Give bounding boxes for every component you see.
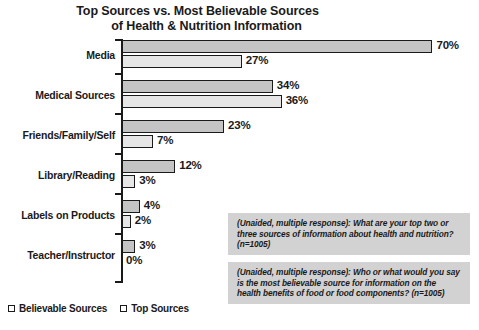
chart-title-line-2: of Health & Nutrition Information	[0, 19, 395, 34]
bar-value-label: 4%	[144, 199, 160, 211]
category-label: Friends/Family/Self	[0, 129, 115, 141]
bar	[122, 175, 135, 188]
bar-value-label: 0%	[126, 254, 142, 266]
annotation-believable-sources: (Unaided, multiple response): Who or wha…	[228, 262, 470, 304]
bar	[122, 215, 131, 228]
bar-row: 12%	[122, 160, 462, 173]
bar-value-label: 27%	[246, 54, 268, 66]
bar-row: 23%	[122, 120, 462, 133]
chart-container: Top Sources vs. Most Believable Sources …	[0, 0, 479, 330]
bar	[122, 240, 135, 253]
bar-value-label: 36%	[286, 94, 308, 106]
bar-group: Library/Reading12%3%	[0, 160, 479, 200]
bar	[122, 95, 282, 108]
bar	[122, 135, 153, 148]
chart-title-line-1: Top Sources vs. Most Believable Sources	[76, 4, 318, 18]
bar-row: 3%	[122, 175, 462, 188]
axis-cap	[115, 281, 121, 283]
bar-row: 36%	[122, 95, 462, 108]
bar-value-label: 2%	[135, 214, 151, 226]
bar-value-label: 7%	[157, 134, 173, 146]
bar	[122, 120, 224, 133]
bar-value-label: 23%	[228, 119, 250, 131]
category-label: Medical Sources	[0, 89, 115, 101]
legend-swatch-icon	[8, 305, 15, 312]
category-label: Labels on Products	[0, 209, 115, 221]
bar	[122, 55, 242, 68]
bar-row: 27%	[122, 55, 462, 68]
legend-label: Believable Sources	[19, 303, 107, 314]
bar	[122, 40, 432, 53]
legend-label: Top Sources	[131, 303, 189, 314]
bar-row: 4%	[122, 200, 462, 213]
bar-value-label: 3%	[139, 239, 155, 251]
bar-row: 70%	[122, 40, 462, 53]
bar-row: 7%	[122, 135, 462, 148]
bar-group: Media70%27%	[0, 40, 479, 80]
bar-value-label: 12%	[179, 159, 201, 171]
annotation-top-sources: (Unaided, multiple response): What are y…	[228, 213, 470, 255]
legend-swatch-icon	[120, 305, 127, 312]
category-label: Teacher/Instructor	[0, 249, 115, 261]
bar-value-label: 70%	[436, 39, 458, 51]
chart-title: Top Sources vs. Most Believable Sources …	[0, 4, 395, 34]
legend-item-top-sources: Top Sources	[120, 303, 189, 314]
category-label: Library/Reading	[0, 169, 115, 181]
bar-value-label: 34%	[277, 79, 299, 91]
bar	[122, 200, 140, 213]
bar	[122, 80, 273, 93]
bar-group: Friends/Family/Self23%7%	[0, 120, 479, 160]
bar-row: 34%	[122, 80, 462, 93]
bar-group: Medical Sources34%36%	[0, 80, 479, 120]
bar	[122, 160, 175, 173]
category-label: Media	[0, 49, 115, 61]
bar-value-label: 3%	[139, 174, 155, 186]
legend-item-believable-sources: Believable Sources	[8, 303, 107, 314]
chart-legend: Believable Sources Top Sources	[8, 303, 189, 314]
